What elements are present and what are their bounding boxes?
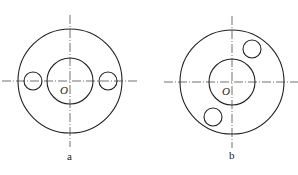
figure-a-center-label: O	[60, 84, 68, 96]
figure-b-center-label: O	[222, 85, 230, 97]
diagram-svg	[0, 0, 298, 175]
hole-circle	[204, 108, 222, 126]
figure-b-label: b	[229, 149, 235, 161]
figure-a-label: a	[67, 150, 72, 162]
figure-b	[164, 16, 298, 148]
diagram-canvas: a b O O	[0, 0, 298, 175]
hole-circle	[243, 40, 261, 58]
figure-a	[2, 15, 138, 147]
